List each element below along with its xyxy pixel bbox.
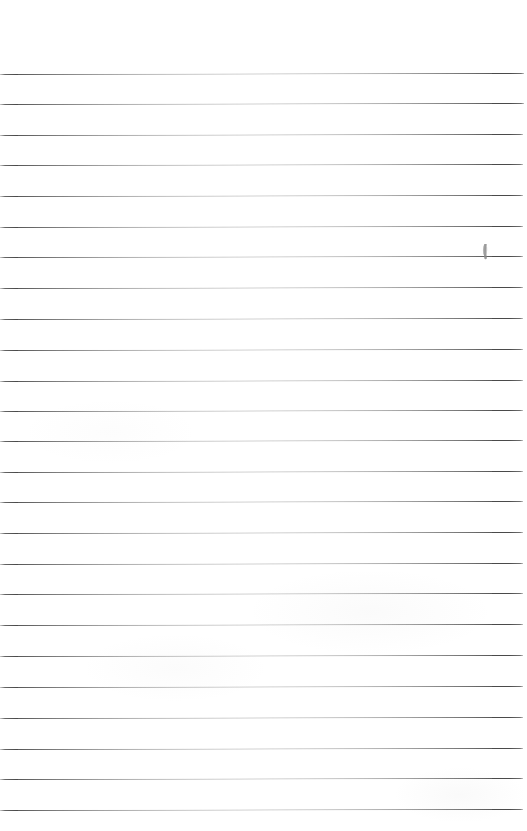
rule-line (0, 318, 523, 320)
rule-line (0, 103, 524, 105)
rule-line (0, 624, 523, 626)
rule-line (0, 471, 523, 473)
rule-line (0, 256, 523, 258)
rule-line (0, 226, 523, 228)
ruled-lines-layer (0, 0, 527, 831)
rule-line (0, 717, 523, 719)
rule-line (0, 748, 523, 750)
rule-line (0, 287, 523, 289)
rule-line (0, 73, 524, 75)
rule-line (0, 778, 523, 780)
notebook-page (0, 0, 527, 831)
rule-line (0, 410, 523, 412)
rule-line (0, 809, 523, 811)
rule-line (0, 164, 523, 166)
rule-line (0, 501, 523, 503)
rule-line (0, 195, 523, 197)
rule-line (0, 686, 523, 688)
rule-line (0, 655, 523, 657)
rule-line (0, 349, 523, 351)
rule-line (0, 380, 523, 382)
rule-line (0, 134, 523, 136)
rule-line (0, 563, 523, 565)
rule-line (0, 440, 523, 442)
rule-line (0, 532, 523, 534)
rule-line (0, 593, 523, 595)
